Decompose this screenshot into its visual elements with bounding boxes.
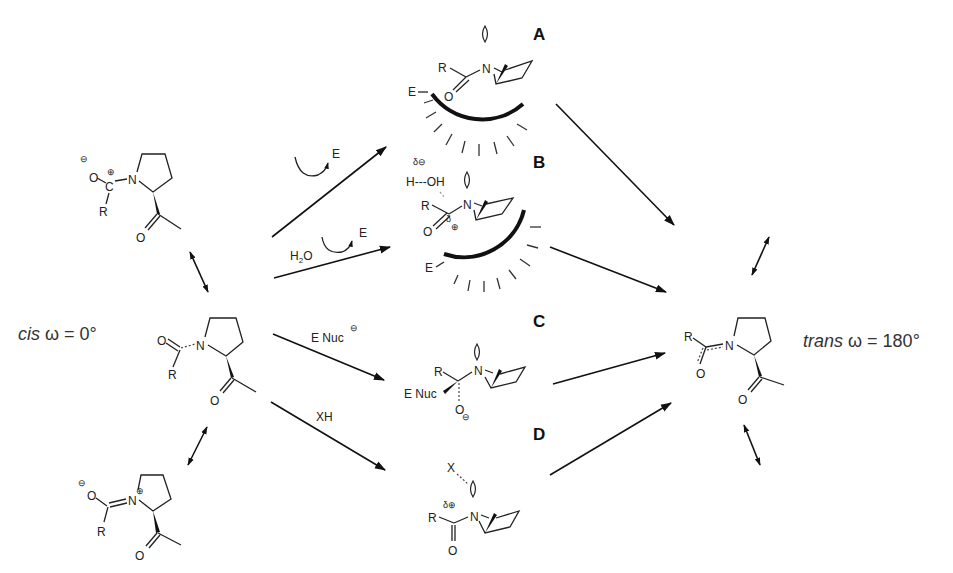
atom-O: O [89, 171, 98, 185]
negative-charge: ⊖ [462, 412, 470, 422]
lone-pair-orbital [471, 481, 476, 497]
trans-label: trans ω = 180° [803, 331, 920, 351]
resonance-structure-bottom: ⊖ O N ⊕ R O [78, 475, 181, 563]
atom-X: X [447, 461, 455, 475]
reagent-H2O: H2O [290, 249, 312, 265]
reagent-E: E [332, 147, 340, 161]
atom-O: O [157, 334, 166, 348]
atom-N: N [474, 364, 483, 378]
label-A: A [533, 25, 545, 44]
atom-N: N [128, 173, 137, 187]
reagent-E: E [359, 226, 367, 240]
arrow-D-to-trans [550, 403, 671, 475]
resonance-arrow [190, 252, 208, 292]
positive-charge: ⊕ [136, 486, 144, 496]
atom-C: C [105, 180, 114, 194]
reagent-ENuc: E Nuc [311, 331, 344, 345]
negative-charge: ⊖ [80, 154, 88, 164]
negative-charge: ⊖ [78, 478, 86, 488]
label-B: B [533, 153, 545, 172]
enzyme-label-E: E [425, 261, 433, 275]
atom-R: R [168, 368, 177, 382]
atom-R: R [97, 525, 106, 539]
trans-amide-structure: R N O O [684, 318, 784, 407]
enzyme-surface [444, 210, 524, 257]
atom-R: R [99, 205, 108, 219]
atom-N: N [470, 510, 479, 524]
intermediate-B: B δ⊖ H---OH R N O δ ⊕ E [406, 153, 545, 292]
atom-N: N [128, 494, 137, 508]
atom-R: R [428, 511, 437, 525]
atom-O: O [135, 549, 144, 563]
atom-O: O [738, 393, 747, 407]
arrow-to-A [272, 147, 386, 237]
curved-arrow-E-B [322, 237, 352, 252]
atom-O: O [210, 394, 219, 408]
curved-arrow-E-A [295, 157, 328, 176]
cis-label: cis ω = 0° [18, 324, 97, 344]
partial-negative: δ⊖ [413, 157, 426, 167]
lone-pair-orbital [465, 172, 470, 188]
intermediate-D: D X δ⊕ R N O [428, 425, 545, 558]
hydrogen-bond-water: H---OH [406, 175, 445, 189]
atom-N: N [196, 339, 205, 353]
lone-pair-orbital [483, 26, 488, 42]
atom-N: N [463, 198, 472, 212]
positive-charge: ⊕ [107, 167, 115, 177]
plus: ⊕ [451, 222, 459, 232]
resonance-arrow [188, 427, 207, 465]
atom-O: O [444, 90, 453, 104]
rotation-arrow-bottom [744, 425, 760, 465]
reagent-XH: XH [316, 410, 333, 424]
atom-R: R [684, 330, 693, 344]
cis-amide-structure: O N R O [157, 318, 256, 408]
atom-N: N [725, 339, 734, 353]
reagent-ENuc: E Nuc [404, 387, 437, 401]
partial-positive: δ⊕ [443, 500, 456, 510]
intermediate-A: A R N O E [408, 25, 545, 156]
atom-O: O [448, 544, 457, 558]
enzyme-label-E: E [408, 85, 416, 99]
arrow-C-to-trans [553, 353, 665, 384]
atom-O: O [423, 225, 432, 239]
atom-N: N [482, 62, 491, 76]
rotation-arrow-top [752, 237, 769, 275]
arrow-B-to-trans [550, 247, 666, 292]
atom-O: O [696, 367, 705, 381]
atom-R: R [434, 365, 443, 379]
atom-R: R [421, 199, 430, 213]
label-C: C [533, 312, 545, 331]
label-D: D [533, 425, 545, 444]
arrow-A-to-trans [556, 104, 674, 225]
negative-charge: ⊖ [350, 323, 358, 333]
resonance-structure-top: ⊖ O ⊕ C R N O [80, 154, 181, 245]
atom-O: O [136, 231, 145, 245]
lone-pair-orbital [475, 344, 480, 360]
reaction-scheme: ⊖ O ⊕ C R N O cis ω = 0° O N R O [0, 0, 953, 573]
atom-R: R [438, 61, 447, 75]
intermediate-C: C R N E Nuc O ⊖ [404, 312, 545, 422]
atom-O: O [87, 489, 96, 503]
